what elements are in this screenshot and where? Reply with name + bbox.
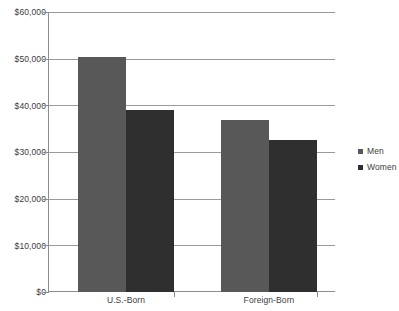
y-axis-tick-label: $60,000: [2, 8, 46, 17]
y-axis-tick-label: $10,000: [2, 242, 46, 251]
gridline-60000: [48, 12, 335, 13]
bar-foreign-born-men[interactable]: [221, 120, 269, 292]
bar-us-born-women[interactable]: [126, 110, 174, 292]
y-axis-tick-label: $0: [2, 288, 46, 297]
legend-swatch-icon: [358, 149, 363, 154]
bar-chart: $60,000 $50,000 $40,000 $30,000 $20,000 …: [0, 0, 399, 311]
legend-label: Women: [367, 163, 397, 172]
y-axis-tick: [43, 292, 49, 293]
y-axis-tick-label: $40,000: [2, 102, 46, 111]
y-axis-tick-label: $50,000: [2, 55, 46, 64]
y-axis-tick-label: $30,000: [2, 148, 46, 157]
y-axis-tick-label: $20,000: [2, 195, 46, 204]
legend-item-men[interactable]: Men: [358, 143, 397, 159]
legend-label: Men: [367, 147, 384, 156]
bar-foreign-born-women[interactable]: [269, 140, 317, 292]
x-axis-tick: [174, 292, 175, 297]
x-axis-label-us-born: U.S.-Born: [78, 296, 174, 305]
plot-area: [48, 12, 335, 292]
x-axis-tick: [317, 292, 318, 297]
legend: Men Women: [358, 143, 397, 175]
y-axis-labels: $60,000 $50,000 $40,000 $30,000 $20,000 …: [0, 0, 46, 311]
legend-item-women[interactable]: Women: [358, 159, 397, 175]
bar-us-born-men[interactable]: [78, 57, 126, 292]
legend-swatch-icon: [358, 165, 363, 170]
x-axis-label-foreign-born: Foreign-Born: [221, 296, 317, 305]
